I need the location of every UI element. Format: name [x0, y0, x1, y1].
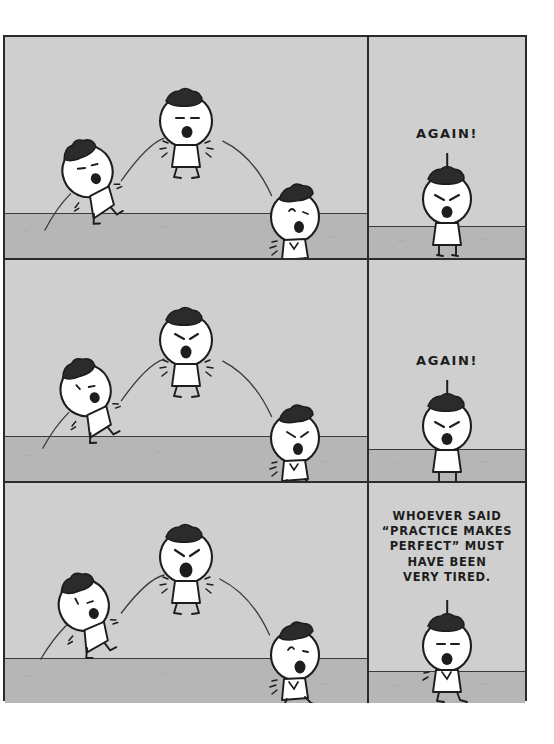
shout-panel-2: ˋ′ˋ ˋ′ˋ AGAIN!: [369, 260, 525, 481]
ground-speck: ˋ′ˋ: [160, 226, 169, 232]
comic-row-3: ˋ′ˋ ˋ′ˋ ˋ′ˋ: [5, 483, 525, 703]
speech-stem: [446, 153, 448, 166]
jump-sequence-panel-2: ˋ′ˋ ˋ′ˋ ˋ′ˋ: [5, 260, 369, 481]
shout-panel-1: ˋ′ˋ ˋ′ˋ AGAIN!: [369, 37, 525, 258]
ground-speck: ˋ′ˋ: [397, 240, 406, 246]
character-shouting: [411, 167, 483, 258]
speech-stem: [446, 380, 448, 393]
character-landing: [257, 623, 329, 703]
character-landing: [257, 406, 329, 481]
comic-row-2: ˋ′ˋ ˋ′ˋ ˋ′ˋ: [5, 260, 525, 483]
character-shouting: [411, 394, 483, 481]
ground-speck: ˋ′ˋ: [23, 455, 32, 461]
comic-row-1: ˋ′ˋ ˋ′ˋ ˋ′ˋ: [5, 37, 525, 260]
speech-caption: AGAIN!: [369, 352, 525, 369]
ground-speck: ˋ′ˋ: [25, 675, 34, 681]
comic-page: ˋ′ˋ ˋ′ˋ ˋ′ˋ: [3, 35, 527, 701]
speech-stem: [446, 600, 448, 613]
character-takeoff: [51, 354, 123, 446]
character-apex: [150, 306, 222, 398]
punchline-caption: WHOEVER SAID “PRACTICE MAKES PERFECT” MU…: [369, 509, 525, 585]
character-landing: [257, 185, 329, 258]
ground-speck: ˋ′ˋ: [157, 673, 166, 679]
character-apex: [150, 87, 222, 179]
character-exhausted: [411, 614, 483, 703]
ground-speck: ˋ′ˋ: [395, 685, 404, 691]
character-apex: [150, 523, 222, 615]
jump-sequence-panel-3: ˋ′ˋ ˋ′ˋ ˋ′ˋ: [5, 483, 369, 703]
character-takeoff: [53, 135, 125, 227]
punchline-panel-3: ˋ′ˋ ˋ′ˋ WHOEVER SAID “PRACTICE MAKES PER…: [369, 483, 525, 703]
ground-speck: ˋ′ˋ: [21, 230, 30, 236]
jump-sequence-panel-1: ˋ′ˋ ˋ′ˋ ˋ′ˋ: [5, 37, 369, 258]
ground-speck: ˋ′ˋ: [155, 451, 164, 457]
character-takeoff: [49, 569, 121, 661]
ground-speck: ˋ′ˋ: [395, 463, 404, 469]
speech-caption: AGAIN!: [369, 125, 525, 142]
